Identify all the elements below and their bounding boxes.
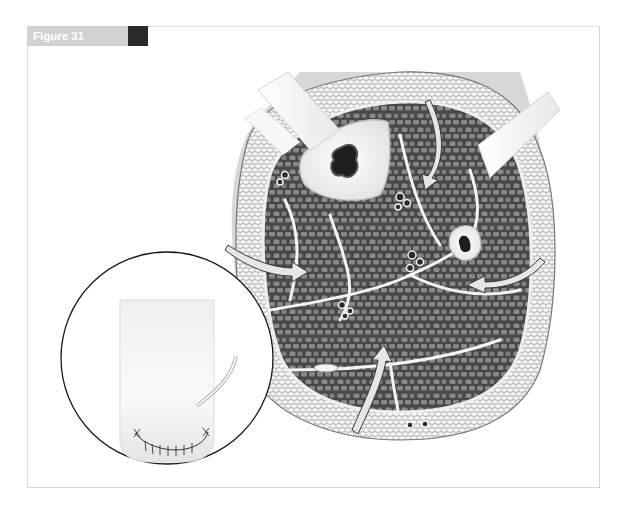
inset-circle (61, 252, 273, 464)
fibula-bone (449, 226, 481, 261)
leg-cross-section-illustration (0, 0, 622, 520)
finger-stump (120, 300, 214, 462)
superficial-nerve (314, 364, 338, 372)
